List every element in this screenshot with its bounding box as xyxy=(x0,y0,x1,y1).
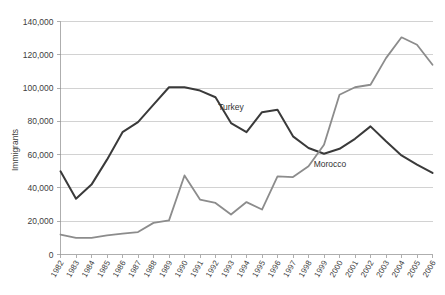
axis-lines xyxy=(61,22,433,255)
series-label-morocco: Morocco xyxy=(314,159,347,169)
x-tick-label: 1986 xyxy=(111,259,128,279)
x-tick-label: 2002 xyxy=(359,259,376,279)
x-tick-label: 1992 xyxy=(204,259,221,279)
x-tick-label: 2000 xyxy=(328,259,345,279)
x-tick-label: 1984 xyxy=(80,259,97,279)
series-label-turkey: Turkey xyxy=(218,102,244,112)
x-tick-label: 1998 xyxy=(297,259,314,279)
y-tick-label: 120,000 xyxy=(23,50,54,60)
x-tick-label: 1997 xyxy=(282,259,299,279)
x-tick-label: 1994 xyxy=(235,259,252,279)
series-line-turkey xyxy=(61,87,433,199)
chart-canvas: 020,00040,00060,00080,000100,000120,0001… xyxy=(0,0,445,295)
y-tick-label: 40,000 xyxy=(28,183,54,193)
x-tick-label: 2005 xyxy=(406,259,423,279)
x-tick-label: 1999 xyxy=(313,259,330,279)
x-tick-label: 2003 xyxy=(375,259,392,279)
y-tick-label: 140,000 xyxy=(23,17,54,27)
y-tick-label: 60,000 xyxy=(28,150,54,160)
y-tick-label: 0 xyxy=(49,250,54,260)
x-tick-label: 1988 xyxy=(142,259,159,279)
y-tick-label: 20,000 xyxy=(28,216,54,226)
x-tick-label: 2006 xyxy=(421,259,438,279)
x-tick-label: 1991 xyxy=(189,259,206,279)
x-tick-label: 1993 xyxy=(220,259,237,279)
y-tick-label: 80,000 xyxy=(28,116,54,126)
x-tick-label: 1987 xyxy=(127,259,144,279)
x-tick-label: 1990 xyxy=(173,259,190,279)
gridlines xyxy=(57,22,433,255)
data-series xyxy=(61,37,433,238)
x-tick-label: 2001 xyxy=(344,259,361,279)
y-axis-title: Immigrants xyxy=(10,129,20,171)
y-axis-tick-labels: 020,00040,00060,00080,000100,000120,0001… xyxy=(23,17,54,260)
x-tick-label: 1982 xyxy=(49,259,66,279)
series-line-morocco xyxy=(61,37,433,238)
x-axis-tick-marks xyxy=(61,255,433,259)
x-tick-label: 1996 xyxy=(266,259,283,279)
x-axis-tick-labels: 1982198319841985198619871988198919901991… xyxy=(49,259,438,279)
x-tick-label: 1983 xyxy=(65,259,82,279)
x-tick-label: 1989 xyxy=(158,259,175,279)
y-tick-label: 100,000 xyxy=(23,83,54,93)
x-tick-label: 1995 xyxy=(251,259,268,279)
x-tick-label: 2004 xyxy=(390,259,407,279)
x-tick-label: 1985 xyxy=(96,259,113,279)
immigrants-line-chart: 020,00040,00060,00080,000100,000120,0001… xyxy=(0,0,445,295)
